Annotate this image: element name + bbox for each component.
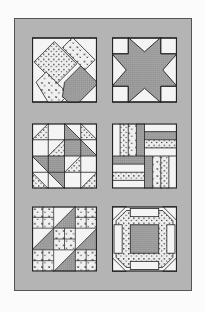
churn-dash-graphic	[112, 206, 177, 272]
quilt-block-eight-point-star	[112, 37, 177, 103]
quilt-block-rail-fence	[112, 123, 177, 189]
quilt-block-triangle-squares	[32, 123, 97, 189]
eight-point-star-graphic	[112, 37, 177, 103]
jacobs-ladder-graphic	[32, 206, 97, 272]
quilt-block-churn-dash	[112, 206, 177, 272]
quilt-block-jacobs-ladder	[32, 206, 97, 272]
diagonal-bars-graphic	[32, 37, 97, 103]
rail-fence-graphic	[112, 123, 177, 189]
illustration-frame	[14, 18, 192, 291]
triangle-squares-graphic	[32, 123, 97, 189]
quilt-block-diagonal-bars	[32, 37, 97, 103]
